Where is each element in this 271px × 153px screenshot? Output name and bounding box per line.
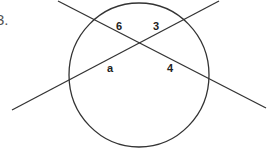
segment-label-lower-right: 4 bbox=[167, 62, 174, 74]
segment-label-upper-right: 3 bbox=[153, 20, 159, 32]
chord-descending bbox=[58, 1, 266, 108]
segment-label-lower-left: a bbox=[107, 62, 114, 74]
circle-chords-diagram: 6 3 a 4 bbox=[0, 0, 271, 153]
chord-ascending bbox=[12, 1, 219, 110]
circle bbox=[69, 3, 209, 147]
segment-label-upper-left: 6 bbox=[116, 20, 122, 32]
